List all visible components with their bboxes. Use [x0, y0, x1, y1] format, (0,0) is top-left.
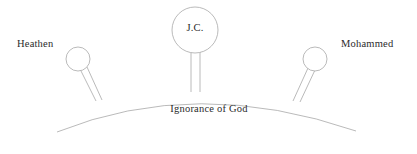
- mohammed-stem-right-line: [300, 70, 315, 102]
- mohammed-head-circle: [303, 47, 327, 71]
- heathen-head-circle: [66, 47, 90, 71]
- label-mohammed: Mohammed: [341, 38, 393, 49]
- figure-heathen: [66, 47, 102, 101]
- figure-jesus-christ: [172, 7, 218, 92]
- figure-mohammed: [293, 47, 327, 102]
- heathen-stem-left-line: [80, 69, 96, 101]
- label-ignorance-of-god: Ignorance of God: [134, 103, 284, 114]
- diagram-canvas: Heathen J.C. Mohammed Ignorance of God: [0, 0, 417, 154]
- label-heathen: Heathen: [17, 38, 53, 49]
- heathen-stem-right-line: [87, 67, 102, 100]
- mohammed-stem-left-line: [293, 68, 308, 101]
- label-jesus-christ: J.C.: [172, 22, 218, 33]
